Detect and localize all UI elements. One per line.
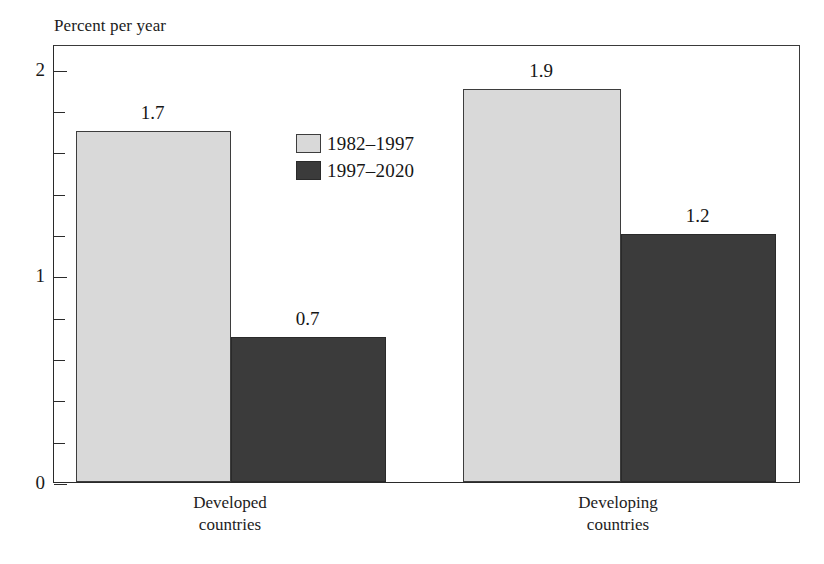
y-axis-minor-tick — [54, 360, 65, 361]
bar-value-label: 1.2 — [686, 205, 710, 227]
plot-frame — [53, 45, 800, 483]
legend-item[interactable]: 1997–2020 — [296, 158, 414, 183]
y-axis-minor-tick — [54, 195, 65, 196]
y-axis-tick-label: 0 — [5, 472, 45, 494]
legend-swatch-icon — [296, 134, 321, 153]
chart-legend: 1982–1997 1997–2020 — [296, 131, 414, 185]
bar — [463, 89, 621, 482]
y-axis-major-tick — [54, 71, 67, 72]
category-label-line: countries — [578, 514, 657, 536]
y-axis-tick-label: 2 — [5, 59, 45, 81]
legend-label: 1997–2020 — [327, 160, 414, 182]
legend-label: 1982–1997 — [327, 133, 414, 155]
bar-value-label: 0.7 — [296, 308, 320, 330]
bar — [231, 337, 386, 482]
y-axis-minor-tick — [54, 319, 65, 320]
category-label-line: countries — [193, 514, 267, 536]
plot-area — [54, 46, 799, 482]
category-label-line: Developing — [578, 492, 657, 514]
y-axis-minor-tick — [54, 401, 65, 402]
y-axis-major-tick — [54, 277, 67, 278]
bar — [76, 131, 231, 482]
x-axis-category-label: Developedcountries — [193, 492, 267, 536]
y-axis-minor-tick — [54, 443, 65, 444]
y-axis-minor-tick — [54, 112, 65, 113]
bar-value-label: 1.9 — [529, 60, 553, 82]
y-axis-minor-tick — [54, 236, 65, 237]
x-axis-category-label: Developingcountries — [578, 492, 657, 536]
y-axis-minor-tick — [54, 153, 65, 154]
y-axis-title: Percent per year — [54, 16, 166, 36]
bar-chart-figure: Percent per year 2101.70.71.91.2Develope… — [0, 0, 824, 564]
bar-value-label: 1.7 — [141, 102, 165, 124]
category-label-line: Developed — [193, 492, 267, 514]
legend-item[interactable]: 1982–1997 — [296, 131, 414, 156]
legend-swatch-icon — [296, 161, 321, 180]
bar — [621, 234, 776, 482]
y-axis-major-tick — [54, 484, 67, 485]
y-axis-tick-label: 1 — [5, 265, 45, 287]
